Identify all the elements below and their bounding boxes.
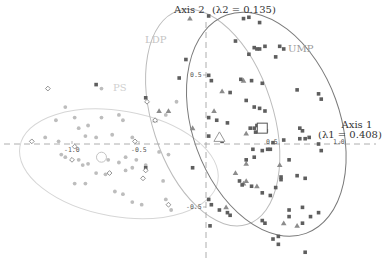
point-ldp	[166, 108, 172, 113]
point-ps	[130, 166, 134, 170]
point-ldp	[187, 16, 193, 21]
point-ump	[258, 47, 262, 51]
point-ps	[94, 136, 98, 140]
point-ump	[269, 194, 273, 198]
point-ump	[309, 215, 313, 219]
point-ump	[248, 126, 252, 130]
point-ump	[252, 105, 256, 109]
centroid-ump	[257, 123, 267, 133]
point-ps	[169, 208, 173, 212]
group-centroids	[96, 123, 267, 162]
point-other	[70, 157, 75, 162]
point-ump	[215, 118, 219, 122]
point-other	[141, 176, 146, 181]
point-ump	[234, 39, 238, 43]
x-tick-label: 1.0	[333, 138, 345, 146]
point-ps	[63, 155, 67, 159]
point-ump	[287, 215, 291, 219]
centroid-ldp	[214, 132, 225, 142]
point-ps	[106, 158, 110, 162]
point-ump	[251, 147, 255, 151]
point-ump	[228, 91, 232, 95]
point-ps	[86, 162, 90, 166]
point-ldp	[281, 220, 287, 225]
point-ump	[244, 158, 248, 162]
point-ps	[134, 158, 138, 162]
point-ump	[278, 45, 282, 49]
point-ps	[124, 169, 128, 173]
point-ps	[100, 87, 104, 91]
point-ump	[274, 55, 278, 59]
point-ldp	[294, 223, 300, 228]
point-ps	[43, 136, 47, 140]
point-ump	[260, 191, 264, 195]
point-ps	[77, 158, 81, 162]
point-ump	[303, 137, 307, 141]
point-ump	[269, 147, 273, 151]
point-ump	[287, 208, 291, 212]
point-ump	[184, 58, 188, 62]
point-other	[45, 86, 50, 91]
point-ump	[277, 235, 281, 239]
point-ump	[252, 155, 256, 159]
point-ps	[164, 198, 168, 202]
point-ump	[295, 88, 299, 92]
point-ldp	[277, 162, 283, 167]
point-ump	[317, 92, 321, 96]
point-ump	[319, 97, 323, 101]
point-ump	[319, 149, 323, 153]
point-ump	[279, 178, 283, 182]
point-ps	[57, 139, 61, 143]
point-ump	[207, 74, 211, 78]
group-label-ldp: LDP	[145, 34, 166, 45]
point-ump	[263, 221, 267, 225]
point-ps	[86, 124, 90, 128]
point-ps	[117, 161, 121, 165]
point-ump	[274, 186, 278, 190]
point-ps	[175, 100, 179, 104]
point-ps	[73, 182, 77, 186]
point-ump	[177, 76, 181, 80]
point-other	[166, 202, 171, 207]
point-ump	[240, 183, 244, 187]
axis2-eigenvalue: (λ2 = 0.135)	[212, 4, 276, 15]
y-tick-label: 0.5	[190, 71, 202, 79]
point-ps	[161, 179, 165, 183]
point-ump	[317, 211, 321, 215]
point-ps	[94, 171, 98, 175]
point-ldp	[243, 161, 249, 166]
point-ump	[210, 79, 214, 83]
point-ps	[117, 113, 121, 117]
point-ump	[247, 52, 251, 56]
point-ps	[130, 200, 134, 204]
point-ump	[277, 243, 281, 247]
point-ump	[303, 177, 307, 181]
point-ps	[113, 190, 117, 194]
point-ump	[263, 109, 267, 113]
point-ump	[301, 206, 305, 210]
point-ump	[317, 142, 321, 146]
point-other	[145, 99, 150, 104]
point-ps	[121, 192, 125, 196]
point-ump	[260, 149, 264, 153]
y-tick-label: -0.5	[186, 203, 202, 211]
axis2-label: Axis 2 (λ2 = 0.135)	[174, 4, 276, 15]
point-ump	[282, 47, 286, 51]
point-ump	[226, 121, 230, 125]
point-ldp	[219, 88, 225, 93]
point-ump	[282, 138, 286, 142]
point-ps	[164, 113, 168, 117]
point-ps	[124, 155, 128, 159]
point-ump	[94, 83, 98, 87]
point-ps	[140, 203, 144, 207]
point-ump	[250, 184, 254, 188]
group-label-ps: PS	[113, 82, 127, 93]
point-ump	[191, 166, 195, 170]
point-ldp	[223, 205, 229, 210]
x-tick-label: -0.5	[131, 146, 147, 154]
data-points	[29, 14, 323, 254]
point-ump	[287, 158, 291, 162]
point-ump	[263, 45, 267, 49]
point-ump	[244, 99, 248, 103]
point-ump	[258, 21, 262, 25]
